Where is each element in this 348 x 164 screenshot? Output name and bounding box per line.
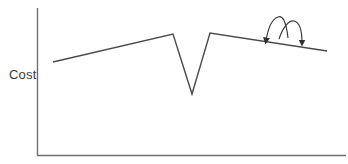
cost-curve [53, 33, 327, 94]
diagram-svg [0, 0, 348, 164]
arrow-hop-left-icon [266, 17, 288, 41]
arrow-hop-right-icon [279, 21, 302, 43]
y-axis-label: Cost [9, 67, 37, 82]
cost-diagram: Cost [0, 0, 348, 164]
